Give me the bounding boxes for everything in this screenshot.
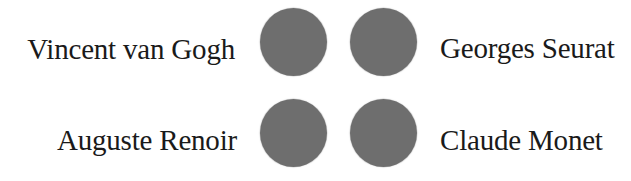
circle-icon [260,99,327,167]
circle-icon [350,99,417,167]
label-claude-monet: Claude Monet [440,126,603,155]
label-vincent-van-gogh: Vincent van Gogh [27,35,235,64]
label-auguste-renoir: Auguste Renoir [57,126,237,155]
circle-icon [260,8,327,76]
label-georges-seurat: Georges Seurat [440,34,615,63]
circle-icon [350,8,417,76]
